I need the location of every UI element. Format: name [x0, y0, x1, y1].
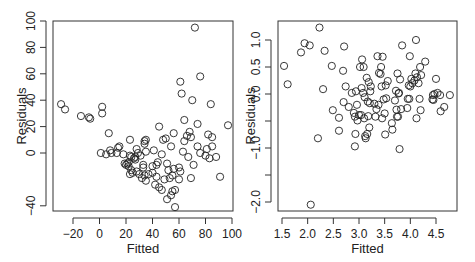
data-point	[348, 89, 355, 96]
data-point	[416, 95, 423, 102]
x-tick-label: 60	[172, 227, 186, 241]
data-point	[149, 163, 156, 170]
data-point	[339, 67, 346, 74]
data-point	[105, 130, 112, 137]
x-tick-label: 3.0	[351, 227, 368, 241]
data-point	[284, 81, 291, 88]
x-tick-label: 100	[222, 227, 242, 241]
data-point	[213, 153, 220, 160]
data-point	[297, 49, 304, 56]
data-point	[372, 113, 379, 120]
data-point	[145, 171, 152, 178]
data-point	[185, 153, 192, 160]
data-point	[365, 113, 372, 120]
data-point	[171, 186, 178, 193]
x-axis: 1.52.02.53.03.54.04.5	[274, 218, 445, 241]
data-point	[87, 115, 94, 122]
y-tick-label: 0	[24, 149, 38, 156]
data-point	[396, 145, 403, 152]
x-tick-label: 80	[199, 227, 213, 241]
data-point	[314, 135, 321, 142]
data-point	[191, 24, 198, 31]
data-point	[363, 74, 370, 81]
data-point	[161, 176, 168, 183]
y-tick-label: −40	[24, 195, 38, 216]
data-point	[181, 116, 188, 123]
data-point	[149, 169, 156, 176]
data-point	[207, 101, 214, 108]
y-tick-label: 60	[24, 67, 38, 81]
data-point	[379, 53, 386, 60]
data-point	[197, 73, 204, 80]
data-point	[158, 151, 165, 158]
x-tick-label: 4.5	[428, 227, 445, 241]
data-point	[412, 36, 419, 43]
left-residuals-vs-fitted-plot: −20020406080100Fitted−40020406080100Resi…	[14, 11, 242, 256]
y-axis-label: Residuals	[14, 87, 29, 145]
data-point	[321, 47, 328, 54]
data-point	[194, 143, 201, 150]
data-point	[382, 82, 389, 89]
x-tick-label: 1.5	[274, 227, 291, 241]
data-point	[422, 58, 429, 65]
data-point	[352, 130, 359, 137]
data-point	[142, 136, 149, 143]
data-point	[224, 122, 231, 129]
x-axis-label: Fitted	[127, 241, 160, 256]
data-point	[360, 89, 367, 96]
right-residuals-vs-fitted-plot: 1.52.02.53.03.54.04.5Fitted−2.0−1.00.00.…	[243, 21, 457, 256]
data-point	[133, 145, 140, 152]
data-point	[417, 107, 424, 114]
data-point	[396, 76, 403, 83]
data-point	[142, 148, 149, 155]
y-axis-label: Residuals	[243, 87, 258, 145]
y-tick-label: 0.5	[249, 58, 263, 75]
data-point	[216, 173, 223, 180]
data-point	[432, 75, 439, 82]
data-point	[167, 143, 174, 150]
data-point	[150, 147, 157, 154]
data-point	[116, 143, 123, 150]
data-point	[163, 196, 170, 203]
data-point	[358, 84, 365, 91]
data-point	[391, 97, 398, 104]
data-point	[365, 79, 372, 86]
x-tick-label: 2.0	[299, 227, 316, 241]
data-point	[367, 83, 374, 90]
data-point	[177, 168, 184, 175]
data-point	[126, 136, 133, 143]
data-point	[170, 165, 177, 172]
data-point	[383, 95, 390, 102]
data-point	[404, 95, 411, 102]
data-point	[342, 83, 349, 90]
data-points	[280, 24, 453, 208]
x-tick-label: 3.5	[376, 227, 393, 241]
data-point	[61, 106, 68, 113]
data-point	[187, 134, 194, 141]
data-point	[384, 77, 391, 84]
data-point	[341, 43, 348, 50]
y-tick-label: 80	[24, 40, 38, 54]
data-point	[366, 124, 373, 131]
data-point	[345, 103, 352, 110]
data-point	[413, 115, 420, 122]
data-point	[316, 24, 323, 31]
data-point	[77, 112, 84, 119]
y-tick-label: 100	[24, 11, 38, 31]
data-point	[406, 95, 413, 102]
data-point	[335, 127, 342, 134]
data-point	[177, 78, 184, 85]
data-point	[406, 53, 413, 60]
data-point	[154, 159, 161, 166]
data-point	[113, 149, 120, 156]
data-point	[129, 169, 136, 176]
data-point	[162, 135, 169, 142]
data-point	[351, 143, 358, 150]
data-point	[329, 107, 336, 114]
data-point	[194, 120, 201, 127]
data-point	[57, 101, 64, 108]
data-point	[99, 110, 106, 117]
data-point	[446, 91, 453, 98]
data-point	[187, 174, 194, 181]
y-tick-label: −2.0	[249, 190, 263, 214]
